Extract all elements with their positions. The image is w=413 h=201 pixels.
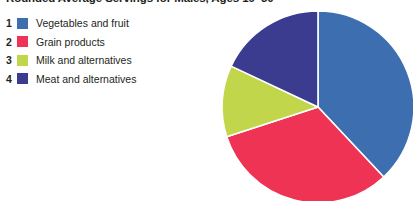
pie-slice-group: Vegetables and fruitGrain productsMilk a… bbox=[222, 11, 413, 201]
pie-chart-figure: Rounded Average Servings for Males, Ages… bbox=[0, 0, 413, 201]
pie-chart: Vegetables and fruitGrain productsMilk a… bbox=[0, 0, 413, 201]
